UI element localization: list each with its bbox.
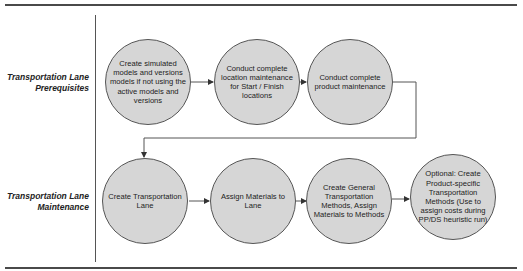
node-create-simulated-models: Create simulated models and versions mod… (105, 39, 191, 125)
node-text: Conduct complete location maintenance fo… (219, 64, 295, 101)
node-general-transportation-methods: Create General Transportation Methods, A… (306, 158, 392, 244)
node-text: Conduct complete product maintenance (312, 73, 388, 91)
node-text: Create General Transportation Methods, A… (311, 183, 387, 220)
node-text: Optional: Create Product-specific Transp… (415, 169, 491, 224)
node-create-transportation-lane: Create Transportation Lane (102, 158, 188, 244)
node-text: Create Transportation Lane (107, 192, 183, 210)
node-assign-materials-to-lane: Assign Materials to Lane (210, 158, 296, 244)
node-product-specific-methods: Optional: Create Product-specific Transp… (410, 154, 496, 240)
node-text: Create simulated models and versions mod… (110, 59, 186, 105)
node-text: Assign Materials to Lane (215, 192, 291, 210)
node-location-maintenance: Conduct complete location maintenance fo… (214, 39, 300, 125)
node-product-maintenance: Conduct complete product maintenance (307, 39, 393, 125)
